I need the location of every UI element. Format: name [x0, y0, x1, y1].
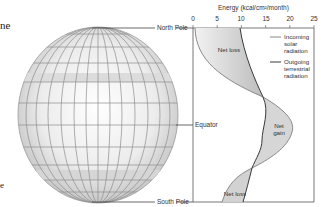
globe — [18, 27, 178, 203]
equator-label: Equator — [195, 122, 218, 129]
x-tick-10: 10 — [237, 16, 244, 23]
axis-title: Energy (kcal/cm²/month) — [218, 5, 289, 12]
net-loss-north-area — [195, 28, 263, 97]
x-tick-0: 0 — [191, 16, 195, 23]
x-tick-20: 20 — [286, 16, 293, 23]
net-gain-label: Net gain — [273, 122, 285, 137]
x-tick-5: 5 — [215, 16, 219, 23]
south-pole-label: South Pole — [157, 199, 189, 206]
legend-outgoing-label: Outgoing terrestrial radiation — [284, 58, 310, 79]
net-loss-north-label: Net loss — [218, 46, 240, 53]
x-tick-15: 15 — [262, 16, 269, 23]
x-tick-25: 25 — [310, 16, 317, 23]
net-loss-south-label: Net loss — [224, 190, 246, 197]
legend-incoming-label: Incoming solar radiation — [284, 33, 309, 54]
north-pole-label: North Pole — [157, 25, 188, 32]
